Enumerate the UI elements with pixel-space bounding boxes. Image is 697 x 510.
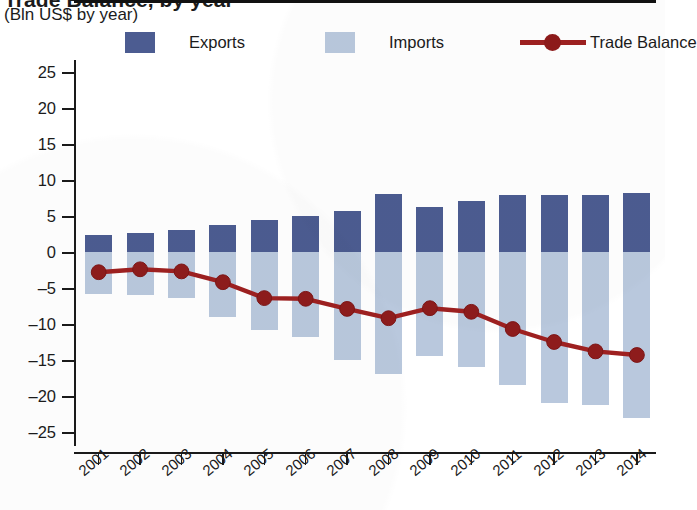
- import-bar: [334, 252, 361, 360]
- x-tick-label: 2012: [530, 445, 566, 479]
- y-tick-mark: [62, 360, 76, 362]
- x-tick-label: 2010: [447, 445, 483, 479]
- y-tick-mark: [62, 72, 76, 74]
- x-tick-label: 2007: [323, 445, 359, 479]
- x-tick-label: 2014: [613, 445, 649, 479]
- import-bar: [251, 252, 278, 330]
- y-tick: 20: [0, 108, 665, 109]
- export-bar: [334, 211, 361, 252]
- y-tick-label: 5: [0, 208, 56, 225]
- exports-swatch-icon: [125, 32, 155, 53]
- import-bar: [85, 252, 112, 294]
- y-tick-mark: [62, 396, 76, 398]
- y-tick-label: –5: [0, 280, 56, 297]
- y-tick-label: –20: [0, 388, 56, 405]
- export-bar: [209, 225, 236, 252]
- x-tick-label: 2011: [489, 445, 525, 479]
- x-axis-line: [74, 452, 656, 454]
- export-bar: [458, 201, 485, 252]
- export-bar: [582, 195, 609, 252]
- y-tick-label: 0: [0, 244, 56, 261]
- y-tick: 15: [0, 144, 665, 145]
- y-tick: 10: [0, 180, 665, 181]
- export-bar: [541, 195, 568, 252]
- import-bar: [541, 252, 568, 403]
- x-tick-label: 2009: [406, 445, 442, 479]
- y-tick-mark: [62, 288, 76, 290]
- y-tick-label: 25: [0, 64, 56, 81]
- import-bar: [582, 252, 609, 405]
- export-bar: [127, 233, 154, 252]
- y-tick-label: –25: [0, 424, 56, 441]
- chart-legend: Exports Imports Trade Balance: [125, 30, 665, 54]
- y-tick: 25: [0, 72, 665, 73]
- x-tick-label: 2002: [116, 445, 152, 479]
- export-bar: [251, 220, 278, 252]
- legend-item-imports[interactable]: Imports: [325, 30, 444, 54]
- y-tick-label: 15: [0, 136, 56, 153]
- import-bar: [292, 252, 319, 337]
- x-tick-label: 2008: [365, 445, 401, 479]
- imports-swatch-icon: [325, 32, 355, 53]
- legend-item-trade-balance[interactable]: Trade Balance: [520, 30, 697, 54]
- y-tick-mark: [62, 432, 76, 434]
- import-bar: [127, 252, 154, 295]
- y-tick-mark: [62, 324, 76, 326]
- import-bar: [168, 252, 195, 298]
- y-tick-mark: [62, 180, 76, 182]
- y-tick-mark: [62, 216, 76, 218]
- export-bar: [168, 230, 195, 252]
- legend-item-exports[interactable]: Exports: [125, 30, 245, 54]
- y-tick-mark: [62, 144, 76, 146]
- legend-label-trade-balance: Trade Balance: [590, 33, 697, 52]
- y-tick-label: 20: [0, 100, 56, 117]
- y-tick-label: –15: [0, 352, 56, 369]
- import-bar: [209, 252, 236, 317]
- legend-label-imports: Imports: [389, 33, 444, 52]
- import-bar: [499, 252, 526, 385]
- legend-label-exports: Exports: [189, 33, 245, 52]
- export-bar: [499, 195, 526, 252]
- import-bar: [375, 252, 402, 374]
- import-bar: [623, 252, 650, 418]
- y-tick-label: –10: [0, 316, 56, 333]
- zero-baseline: [74, 0, 656, 3]
- y-tick: –25: [0, 432, 665, 433]
- x-tick-label: 2003: [158, 445, 194, 479]
- x-tick-label: 2005: [240, 445, 276, 479]
- export-bar: [292, 216, 319, 252]
- chart-subtitle: (Bln US$ by year): [4, 5, 138, 25]
- x-tick-label: 2006: [282, 445, 318, 479]
- y-tick-mark: [62, 108, 76, 110]
- import-bar: [416, 252, 443, 356]
- y-tick-mark: [62, 252, 76, 254]
- x-tick-label: 2004: [199, 445, 235, 479]
- x-tick-label: 2013: [572, 445, 608, 479]
- export-bar: [375, 194, 402, 252]
- x-tick-label: 2001: [75, 445, 111, 479]
- y-tick-label: 10: [0, 172, 56, 189]
- export-bar: [416, 207, 443, 252]
- import-bar: [458, 252, 485, 367]
- export-bar: [85, 235, 112, 252]
- line-marker-icon: [520, 32, 586, 53]
- export-bar: [623, 193, 650, 252]
